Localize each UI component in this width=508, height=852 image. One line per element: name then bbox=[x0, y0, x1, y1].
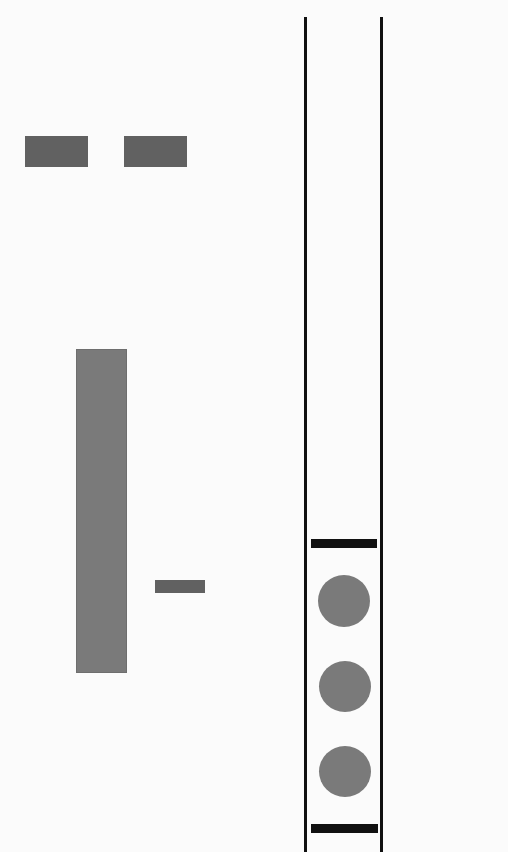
right-vertical-line bbox=[380, 17, 383, 852]
middle-circle bbox=[319, 661, 371, 712]
upper-horizontal-bar bbox=[311, 539, 377, 548]
top-left-rectangle bbox=[25, 136, 88, 167]
lower-horizontal-bar bbox=[311, 824, 378, 833]
upper-circle bbox=[318, 575, 370, 627]
lower-circle bbox=[319, 746, 371, 797]
tall-vertical-bar bbox=[76, 349, 127, 673]
small-horizontal-bar bbox=[155, 580, 205, 593]
top-right-rectangle bbox=[124, 136, 187, 167]
left-vertical-line bbox=[304, 17, 307, 852]
